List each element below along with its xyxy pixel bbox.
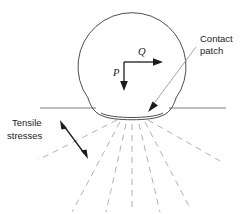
force-P-label: P — [112, 67, 120, 78]
force-P-arrowhead — [120, 81, 128, 91]
contact-patch-inner-line — [101, 113, 163, 118]
contact-stress-diagram: Contact patch Tensile stresses Q P — [0, 0, 251, 214]
tensile-stress-ray-7 — [148, 120, 222, 162]
force-Q-label: Q — [138, 46, 146, 57]
tensile-stress-ray-group — [38, 120, 222, 212]
tensile-stress-ray-2 — [72, 122, 120, 212]
tensile-stresses-label-line2: stresses — [7, 130, 43, 141]
tensile-arrowhead-lower — [81, 149, 88, 159]
wheel-lower-left-flank — [88, 98, 103, 116]
force-Q-arrowhead — [153, 58, 163, 66]
wheel-lower-right-flank — [161, 98, 176, 116]
tensile-stress-ray-6 — [145, 122, 190, 208]
tensile-stress-ray-1 — [38, 120, 117, 160]
contact-patch-leader-line — [152, 47, 196, 106]
contact-patch-label-line2: patch — [200, 45, 223, 56]
tensile-stress-double-arrow — [60, 120, 88, 159]
tensile-stresses-label-line1: Tensile — [12, 117, 42, 128]
contact-patch-label-line1: Contact — [200, 33, 233, 44]
tensile-stress-ray-5 — [139, 124, 160, 212]
wheel-outline — [78, 13, 186, 98]
tensile-arrow-shaft — [64, 126, 84, 153]
force-arrow-group — [120, 58, 163, 91]
diagram-canvas: Contact patch Tensile stresses Q P — [0, 0, 251, 214]
tensile-arrowhead-upper — [60, 120, 67, 130]
contact-patch-leader-arrowhead — [148, 102, 158, 113]
tensile-stress-ray-3 — [106, 124, 126, 212]
